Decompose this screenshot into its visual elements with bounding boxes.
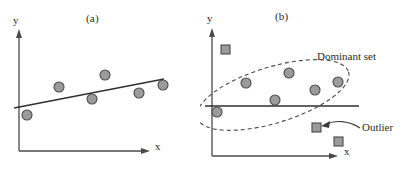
scatter-points-a (22, 70, 168, 120)
data-point (333, 77, 343, 87)
panel-b-x-axis-label: x (344, 145, 350, 157)
dominant-set-annotation: Dominant set (317, 50, 376, 62)
data-point (212, 107, 222, 117)
panel-b-caption: (b) (275, 10, 288, 22)
y-axis-a (16, 29, 22, 151)
data-point (22, 110, 32, 120)
outlier-arrow (321, 121, 360, 128)
figure-container: (a) y x (0, 0, 403, 169)
panel-b: (b) y x Dominant set Outlier (200, 0, 403, 169)
panel-a-x-axis-label: x (155, 140, 161, 152)
data-point (284, 68, 294, 78)
x-axis-a (19, 148, 150, 154)
data-point (270, 95, 280, 105)
panel-b-plot (200, 0, 403, 169)
data-point (54, 82, 64, 92)
x-axis-b (212, 153, 338, 159)
panel-a-caption: (a) (86, 12, 99, 24)
panel-a: (a) y x (0, 0, 201, 169)
outlier-point (312, 123, 321, 132)
data-point (100, 70, 110, 80)
panel-a-plot (0, 0, 201, 169)
data-point (241, 78, 251, 88)
data-point (310, 85, 320, 95)
panel-b-y-axis-label: y (207, 12, 213, 24)
data-point (87, 94, 97, 104)
outlier-point (334, 137, 343, 146)
data-point (158, 80, 168, 90)
scatter-points-b (212, 68, 343, 117)
outlier-point (221, 45, 230, 54)
outlier-annotation: Outlier (362, 121, 393, 133)
data-point (134, 88, 144, 98)
panel-a-y-axis-label: y (13, 14, 19, 26)
